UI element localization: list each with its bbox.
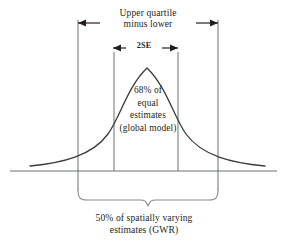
- distribution-diagram: Upper quartile minus lower 2SE 68% of eq…: [0, 0, 287, 248]
- bottom-brace: [78, 189, 218, 206]
- gwr-caption: 50% of spatially varying estimates (GWR): [48, 212, 240, 237]
- two-se-label: 2SE: [126, 41, 162, 51]
- upper-quartile-label: Upper quartile minus lower: [86, 7, 210, 30]
- global-model-annotation: 68% of equal estimates (global model): [104, 84, 192, 135]
